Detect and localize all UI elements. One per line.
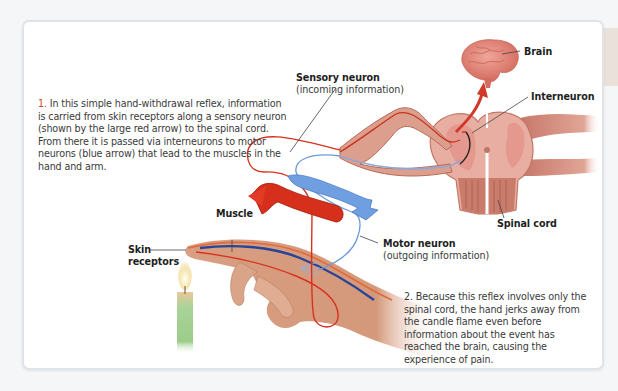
caption-2-text: Because this reflex involves only the sp… (404, 291, 586, 365)
caption-2: 2. Because this reflex involves only the… (404, 291, 590, 367)
brain-graphic (462, 40, 518, 88)
label-motor-neuron-subtitle: (outgoing information) (383, 250, 489, 262)
label-skin-receptors-line1: Skin (128, 244, 179, 256)
label-sensory-neuron: Sensory neuron (incoming information) (296, 72, 404, 96)
candle-graphic (177, 262, 193, 354)
label-motor-neuron: Motor neuron (outgoing information) (383, 238, 489, 262)
caption-1-number: 1. (38, 98, 47, 109)
spinal-cord-graphic (430, 108, 600, 214)
label-interneuron: Interneuron (531, 91, 594, 103)
label-spinal-cord-text: Spinal cord (497, 218, 557, 229)
label-muscle-text: Muscle (216, 208, 253, 219)
sensory-neuron-leader-line (290, 88, 336, 152)
motor-neuron-leader-line (360, 236, 378, 243)
label-skin-receptors-line2: receptors (128, 256, 179, 268)
caption-2-number: 2. (404, 291, 413, 302)
caption-1-text: In this simple hand-withdrawal reflex, i… (38, 98, 286, 172)
label-brain: Brain (524, 46, 552, 58)
label-brain-text: Brain (524, 46, 552, 57)
caption-1: 1. In this simple hand-withdrawal reflex… (38, 98, 288, 174)
label-muscle: Muscle (216, 208, 253, 220)
label-sensory-neuron-title: Sensory neuron (296, 72, 380, 83)
label-skin-receptors: Skin receptors (128, 244, 179, 268)
label-spinal-cord: Spinal cord (497, 218, 557, 230)
label-sensory-neuron-subtitle: (incoming information) (296, 84, 404, 96)
label-interneuron-text: Interneuron (531, 91, 594, 102)
label-motor-neuron-title: Motor neuron (383, 238, 456, 249)
